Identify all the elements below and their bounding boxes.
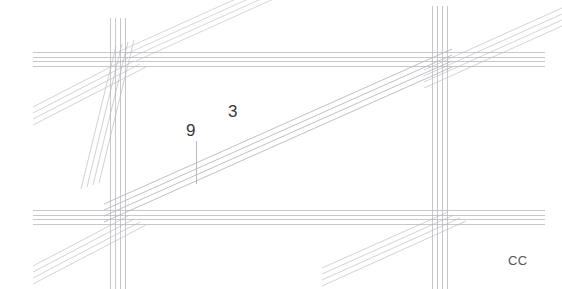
diagonal-band-bottom-left: [33, 216, 146, 284]
horizontal-band-top: [33, 53, 545, 67]
diagonal-band-upper-mid: [118, 0, 318, 61]
callout-label-9: 9: [186, 122, 195, 139]
technical-drawing: [0, 0, 562, 289]
drawing-canvas: 9 3 CC: [0, 0, 562, 289]
diagonal-band-top-right: [424, 8, 562, 88]
diagonal-band-center: [104, 49, 452, 222]
corner-mark-label: CC: [508, 254, 528, 267]
diagonal-band-top-left: [81, 40, 134, 189]
callout-label-3: 3: [228, 103, 237, 120]
diagonal-band-upper-left-long: [33, 58, 146, 125]
diagonal-band-bottom-right: [322, 212, 466, 286]
vertical-band-right: [433, 6, 448, 289]
horizontal-band-bottom: [33, 211, 545, 225]
